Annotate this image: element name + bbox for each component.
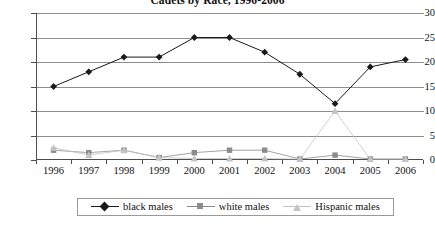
diamond-marker-icon xyxy=(100,202,110,212)
y-gridline xyxy=(37,111,424,112)
y-gridline xyxy=(37,87,424,88)
x-tick-mark xyxy=(177,160,178,164)
x-axis-tick-label: 2006 xyxy=(382,166,428,177)
x-tick-mark xyxy=(106,160,107,164)
square-marker-icon xyxy=(197,203,203,209)
legend-key xyxy=(91,201,119,213)
legend-item[interactable]: white males xyxy=(187,201,269,213)
x-tick-mark xyxy=(142,160,143,164)
y-gridline xyxy=(37,136,424,137)
x-tick-mark xyxy=(388,160,389,164)
legend-item-label: Hispanic males xyxy=(315,202,379,213)
legend-item-label: white males xyxy=(219,202,269,213)
x-tick-mark xyxy=(247,160,248,164)
x-tick-mark xyxy=(36,160,37,164)
chart-title: Cadets by Race, 1996-2006 xyxy=(0,0,435,6)
y-gridline xyxy=(37,38,424,39)
legend-key xyxy=(283,201,311,213)
y-gridline xyxy=(37,13,424,14)
x-tick-mark xyxy=(212,160,213,164)
x-tick-mark xyxy=(423,160,424,164)
x-tick-mark xyxy=(353,160,354,164)
plot-area xyxy=(36,13,423,160)
legend-item[interactable]: Hispanic males xyxy=(283,201,379,213)
chart-container: Cadets by Race, 1996-2006 051015202530 1… xyxy=(0,0,435,225)
x-tick-mark xyxy=(317,160,318,164)
chart-legend: black maleswhite malesHispanic males xyxy=(77,198,394,216)
x-tick-mark xyxy=(71,160,72,164)
y-gridline xyxy=(37,62,424,63)
legend-item-label: black males xyxy=(123,202,173,213)
triangle-marker-icon xyxy=(293,204,301,211)
x-tick-mark xyxy=(282,160,283,164)
legend-item[interactable]: black males xyxy=(91,201,173,213)
legend-key xyxy=(187,201,215,213)
